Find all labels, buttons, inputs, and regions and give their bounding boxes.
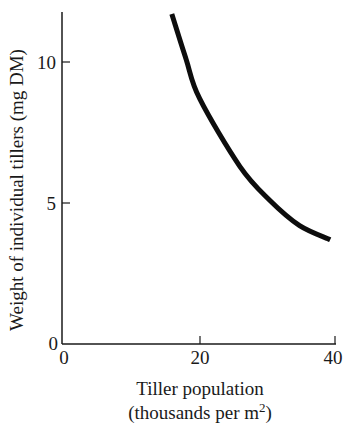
x-tick-label: 40	[324, 347, 343, 368]
x-axis-label: Tiller population	[136, 378, 264, 399]
x-tick-label: 0	[59, 347, 69, 368]
y-tick-label: 0	[49, 333, 59, 354]
y-tick-label: 10	[37, 52, 56, 73]
chart: 10 5 0 0 20 40 Tiller population (thousa…	[0, 0, 348, 437]
y-axis-label: Weight of individual tillers (mg DM)	[6, 49, 28, 331]
data-curve	[172, 14, 330, 240]
x-axis-label-units: (thousands per m2)	[128, 400, 272, 424]
y-tick-label: 5	[47, 193, 57, 214]
x-tick-label: 20	[191, 347, 210, 368]
